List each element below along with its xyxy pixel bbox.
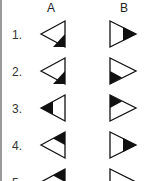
- triangle-1b-right-shaded-tip-icon: [109, 20, 137, 48]
- triangle-4b-right-shaded-tip-icon: [109, 131, 137, 159]
- triangle-4a-left-shaded-top-right-icon: [40, 131, 66, 159]
- triangle-3b-right-shaded-top-left-icon: [109, 94, 137, 122]
- triangle-5b-right-unshaded-icon: [109, 168, 137, 181]
- triangle-1a-left-shaded-bottom-right-icon: [40, 20, 66, 48]
- row-label-4: 4.: [12, 139, 22, 153]
- triangle-2b-right-shaded-bottom-left-icon: [109, 57, 137, 85]
- row-label-3: 3.: [12, 102, 22, 116]
- triangle-2a-left-shaded-bottom-right-icon: [40, 57, 66, 85]
- row-label-5: 5.: [12, 176, 22, 181]
- left-border-rule: [0, 0, 2, 181]
- column-label-b: B: [120, 1, 128, 15]
- row-label-1: 1.: [12, 28, 22, 42]
- triangle-5a-left-shaded-top-right-icon: [40, 168, 66, 181]
- triangle-3a-left-shaded-tip-icon: [40, 94, 66, 122]
- column-label-a: A: [47, 1, 55, 15]
- row-label-2: 2.: [12, 65, 22, 79]
